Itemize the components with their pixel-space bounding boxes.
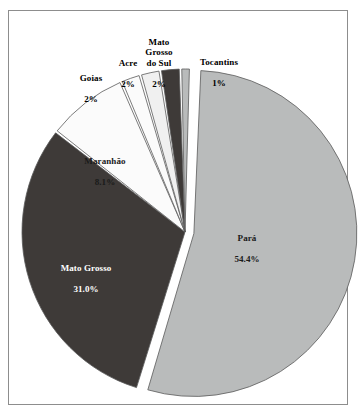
slice-label-tocantins-value: 1% xyxy=(212,78,226,88)
figure-container: Goias 2% Acre 2% Mato Grosso do Sul 2% T… xyxy=(0,0,358,415)
slice-label-para: Pará 54.4% xyxy=(211,222,283,264)
pie-slice-group xyxy=(22,69,357,396)
slice-label-mato-grosso: Mato Grosso 31.0% xyxy=(35,252,137,294)
slice-label-goias-value: 2% xyxy=(84,94,98,104)
slice-label-maranhao-value: 8.1% xyxy=(95,177,116,187)
slice-label-goias-name: Goias xyxy=(80,73,103,83)
slice-label-mato-grosso-do-sul-name: Mato Grosso do Sul xyxy=(145,37,172,68)
slice-label-para-value: 54.4% xyxy=(234,254,259,264)
slice-label-mato-grosso-name: Mato Grosso xyxy=(61,263,112,273)
slice-label-acre-name: Acre xyxy=(119,58,138,68)
slice-label-tocantins-name: Tocantins xyxy=(200,57,238,67)
slice-label-mato-grosso-do-sul-value: 2% xyxy=(152,79,166,89)
slice-label-mato-grosso-value: 31.0% xyxy=(73,284,98,294)
slice-label-tocantins: Tocantins 1% xyxy=(184,46,254,88)
slice-label-maranhao: Maranhão 8.1% xyxy=(63,145,147,187)
slice-label-maranhao-name: Maranhão xyxy=(84,156,125,166)
slice-label-para-name: Pará xyxy=(238,233,257,243)
slice-label-mato-grosso-do-sul: Mato Grosso do Sul 2% xyxy=(136,26,182,89)
slice-label-acre-value: 2% xyxy=(121,79,135,89)
pie-chart: Goias 2% Acre 2% Mato Grosso do Sul 2% T… xyxy=(0,0,358,415)
